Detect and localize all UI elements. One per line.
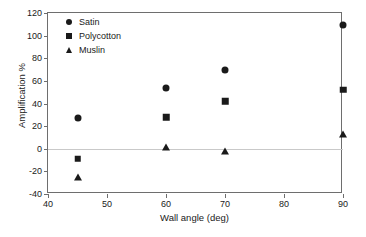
data-point-circle (340, 22, 347, 29)
y-tick-mark (44, 126, 48, 127)
x-tick-label: 80 (279, 200, 289, 209)
data-point-circle (163, 84, 170, 91)
x-tick-mark (225, 194, 226, 198)
data-point-triangle (74, 174, 82, 181)
y-tick-label: 100 (27, 31, 42, 40)
chart-legend: SatinPolycottonMuslin (63, 16, 121, 56)
square-marker-icon (63, 33, 75, 39)
y-tick-mark (44, 104, 48, 105)
x-tick-mark (166, 194, 167, 198)
legend-item-label: Satin (79, 17, 100, 27)
triangle-marker-icon (63, 47, 75, 53)
y-tick-mark (44, 36, 48, 37)
triangle-marker-icon-shape (66, 47, 72, 53)
legend-item-satin[interactable]: Satin (63, 16, 121, 28)
x-tick-mark (107, 194, 108, 198)
x-tick-mark (284, 194, 285, 198)
data-point-square (74, 156, 81, 163)
y-tick-label: -20 (29, 167, 42, 176)
legend-item-label: Polycotton (79, 31, 121, 41)
y-tick-mark (44, 13, 48, 14)
y-tick-label: 80 (32, 54, 42, 63)
legend-item-label: Muslin (79, 45, 105, 55)
y-tick-mark (44, 149, 48, 150)
data-point-circle (222, 66, 229, 73)
zero-line (48, 149, 343, 150)
y-tick-mark (44, 81, 48, 82)
y-axis-title: Amplification % (16, 26, 27, 166)
x-tick-label: 40 (43, 200, 53, 209)
data-point-square (163, 114, 170, 121)
data-point-square (340, 87, 347, 94)
y-tick-mark (44, 58, 48, 59)
x-tick-mark (343, 194, 344, 198)
x-axis-title: Wall angle (deg) (47, 212, 342, 223)
y-tick-label: 120 (27, 9, 42, 18)
y-tick-mark (44, 171, 48, 172)
x-tick-label: 60 (161, 200, 171, 209)
data-point-square (222, 98, 229, 105)
scatter-chart-figure: -40-20020406080100120 405060708090 Satin… (0, 0, 366, 237)
data-point-triangle (339, 131, 347, 138)
x-tick-label: 90 (338, 200, 348, 209)
data-point-triangle (221, 148, 229, 155)
y-tick-label: 40 (32, 99, 42, 108)
y-tick-label: -40 (29, 190, 42, 199)
data-point-triangle (162, 144, 170, 151)
legend-item-muslin[interactable]: Muslin (63, 44, 121, 56)
circle-marker-icon-shape (66, 19, 72, 25)
circle-marker-icon (63, 19, 75, 25)
x-tick-mark (48, 194, 49, 198)
legend-item-polycotton[interactable]: Polycotton (63, 30, 121, 42)
data-point-circle (74, 115, 81, 122)
square-marker-icon-shape (66, 33, 72, 39)
y-tick-label: 60 (32, 76, 42, 85)
x-tick-label: 70 (220, 200, 230, 209)
y-tick-label: 20 (32, 122, 42, 131)
y-tick-label: 0 (37, 144, 42, 153)
x-tick-label: 50 (102, 200, 112, 209)
